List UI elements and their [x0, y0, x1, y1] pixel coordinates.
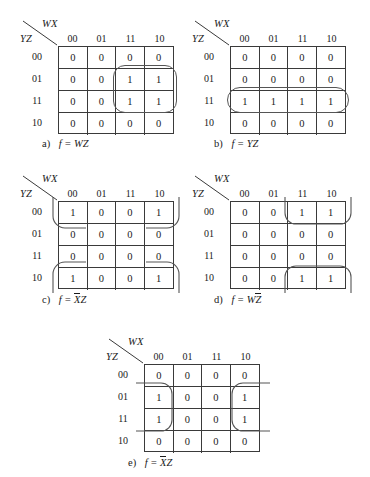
- row-header-a-1: 01: [22, 68, 52, 90]
- kmap-cell: 0: [317, 113, 345, 135]
- kmap-cell: 0: [174, 387, 203, 409]
- row-header-a-3: 10: [22, 112, 52, 134]
- row-var-label-a: YZ: [20, 33, 32, 44]
- kmap-cell: 1: [145, 202, 173, 224]
- kmap-cell: 0: [317, 246, 345, 268]
- kmap-cell: 1: [145, 91, 173, 113]
- kmap-cell: 0: [231, 202, 260, 224]
- kmap-row: 0 0 0 0: [231, 113, 345, 135]
- row-var-label-c: YZ: [20, 188, 32, 199]
- kmap-caption-c: c) f = XZ: [42, 293, 86, 305]
- row-header-d-2: 11: [194, 245, 224, 267]
- kmap-cell: 0: [59, 69, 88, 91]
- kmap-cell: 0: [116, 113, 145, 135]
- kmap-grid-c: 1 0 0 1 0 0 0 0 0 0 0 0 1 0 0 1: [58, 201, 174, 289]
- col-header-d-3: 10: [317, 188, 346, 199]
- kmap-row: 0 0 0 0: [231, 246, 345, 268]
- kmap-cell: 1: [288, 268, 317, 290]
- kmap-row: 1 0 0 1: [145, 387, 259, 409]
- kmap-cell: 0: [231, 113, 260, 135]
- kmap-cell: 0: [202, 387, 231, 409]
- kmap-cell: 1: [145, 69, 173, 91]
- kmap-cell: 0: [231, 365, 259, 387]
- col-header-a-0: 00: [58, 33, 87, 44]
- col-header-d-2: 11: [288, 188, 317, 199]
- kmap-row: 0 0 0 0: [59, 47, 173, 69]
- kmap-cell: 0: [231, 69, 260, 91]
- kmap-cell: 1: [317, 202, 345, 224]
- kmap-cell: 0: [59, 113, 88, 135]
- kmap-caption-prefix-b: f =: [231, 138, 244, 149]
- kmap-cell: 0: [59, 47, 88, 69]
- kmap-cell: 0: [59, 91, 88, 113]
- kmap-cell: 0: [116, 224, 145, 246]
- kmap-caption-a: a) f = WZ: [42, 138, 89, 149]
- kmap-grid-a: 0 0 0 0 0 0 1 1 0 0 1 1 0 0 0 0: [58, 46, 174, 134]
- kmap-cell: 0: [260, 224, 289, 246]
- kmap-marker-c: c): [42, 294, 50, 305]
- kmap-row: 0 0 1 1: [59, 69, 173, 91]
- kmap-cell: 1: [59, 202, 88, 224]
- col-var-label-e: WX: [128, 336, 144, 347]
- kmap-cell: 1: [145, 387, 174, 409]
- row-header-b-1: 01: [194, 68, 224, 90]
- kmap-cell: 1: [231, 91, 260, 113]
- kmap-cell: 0: [231, 246, 260, 268]
- col-header-b-1: 01: [259, 33, 288, 44]
- col-header-e-2: 11: [202, 351, 231, 362]
- col-header-e-0: 00: [144, 351, 173, 362]
- col-header-b-2: 11: [288, 33, 317, 44]
- kmap-cell: 0: [59, 246, 88, 268]
- kmap-cell: 0: [317, 47, 345, 69]
- kmap-cell: 0: [317, 224, 345, 246]
- kmap-row: 0 0 0 0: [231, 47, 345, 69]
- kmap-row: 0 0 0 0: [59, 246, 173, 268]
- kmap-cell: 1: [145, 268, 173, 290]
- row-header-e-2: 11: [108, 408, 138, 430]
- kmap-cell: 0: [174, 365, 203, 387]
- col-header-c-1: 01: [87, 188, 116, 199]
- col-header-d-0: 00: [230, 188, 259, 199]
- row-var-label-b: YZ: [192, 33, 204, 44]
- col-header-c-0: 00: [58, 188, 87, 199]
- kmap-cell: 0: [145, 431, 174, 453]
- kmap-cell: 1: [260, 91, 289, 113]
- kmap-caption-prefix-d: f =: [231, 294, 244, 305]
- kmap-cell: 0: [88, 113, 117, 135]
- kmap-row: 0 0 0 0: [59, 113, 173, 135]
- corner-header-e: WX YZ: [108, 338, 144, 364]
- kmap-caption-term-pre-d: W: [247, 294, 256, 305]
- kmap-cell: 0: [145, 47, 173, 69]
- kmap-row: 0 0 1 1: [59, 91, 173, 113]
- col-header-a-2: 11: [116, 33, 145, 44]
- kmap-cell: 0: [231, 431, 259, 453]
- kmap-row: 0 0 0 0: [145, 365, 259, 387]
- kmap-row: 0 0 0 0: [231, 224, 345, 246]
- kmap-cell: 0: [174, 431, 203, 453]
- corner-header-a: WX YZ: [22, 20, 58, 46]
- row-header-e-1: 01: [108, 386, 138, 408]
- kmap-caption-prefix-c: f =: [59, 294, 72, 305]
- kmap-cell: 0: [116, 47, 145, 69]
- kmap-cell: 0: [288, 47, 317, 69]
- corner-header-b: WX YZ: [194, 20, 230, 46]
- corner-header-c: WX YZ: [22, 175, 58, 201]
- col-header-a-1: 01: [87, 33, 116, 44]
- kmap-grid-d: 0 0 1 1 0 0 0 0 0 0 0 0 0 0 1 1: [230, 201, 346, 289]
- kmap-caption-b: b) f = YZ: [214, 138, 258, 149]
- row-header-e-0: 00: [108, 364, 138, 386]
- kmap-cell: 0: [145, 224, 173, 246]
- kmap-cell: 0: [88, 47, 117, 69]
- kmap-cell: 0: [260, 246, 289, 268]
- col-header-a-3: 10: [145, 33, 174, 44]
- kmap-cell: 1: [116, 91, 145, 113]
- col-var-label-d: WX: [214, 173, 230, 184]
- kmap-cell: 1: [145, 409, 174, 431]
- kmap-grid-e: 0 0 0 0 1 0 0 1 1 0 0 1 0 0 0 0: [144, 364, 260, 452]
- kmap-row: 0 0 0 0: [59, 224, 173, 246]
- kmap-cell: 0: [88, 246, 117, 268]
- row-header-b-0: 00: [194, 46, 224, 68]
- kmap-row: 0 0 0 0: [145, 431, 259, 453]
- col-var-label-c: WX: [42, 173, 58, 184]
- kmap-row: 0 0 1 1: [231, 268, 345, 290]
